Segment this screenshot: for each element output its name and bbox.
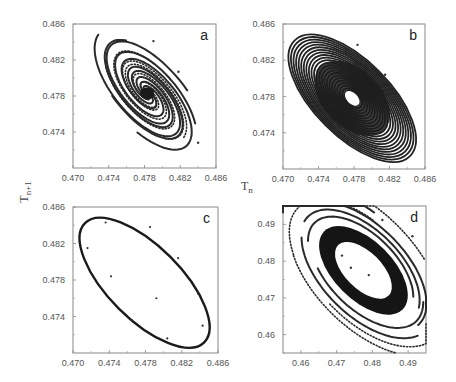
data-point (105, 221, 107, 223)
data-point (403, 107, 405, 109)
panel-letter: b (409, 27, 417, 43)
y-tick-label: 0.486 (42, 202, 65, 212)
panel-d: 0.460.470.480.490.460.470.480.49d (257, 206, 426, 368)
y-tick-label: 0.47 (257, 293, 275, 303)
data-point (152, 40, 154, 42)
data-point (110, 275, 112, 277)
data-point (411, 235, 413, 237)
x-tick-label: 0.48 (364, 358, 382, 368)
x-tick-label: 0.470 (62, 173, 85, 183)
panel-a: 0.4700.4740.4780.4820.4860.4740.4780.482… (42, 19, 227, 183)
x-tick-label: 0.486 (205, 173, 228, 183)
data-point (350, 267, 352, 269)
x-axis-title-sub: n (248, 185, 253, 195)
data-point (384, 74, 386, 76)
data-point (177, 71, 179, 73)
y-tick-label: 0.474 (252, 128, 275, 138)
data-point (155, 297, 157, 299)
data-point (86, 247, 88, 249)
data-point (177, 257, 179, 259)
x-tick-label: 0.486 (207, 358, 230, 368)
x-tick-label: 0.482 (170, 358, 193, 368)
y-axis-title-sub: n+1 (23, 181, 33, 195)
y-tick-label: 0.478 (42, 91, 65, 101)
panel-c: 0.4700.4740.4780.4820.4860.4740.4780.482… (42, 197, 230, 368)
svg-text:Tn+1: Tn+1 (17, 181, 33, 202)
fixed-point (140, 87, 154, 99)
y-axis-title: Tn+1 (17, 181, 33, 202)
panel-letter: a (200, 27, 208, 43)
data-point (197, 142, 199, 144)
svg-text:Tn: Tn (241, 179, 253, 195)
y-tick-label: 0.48 (257, 256, 275, 266)
x-tick-label: 0.486 (414, 174, 437, 184)
y-tick-label: 0.478 (42, 275, 65, 285)
data-point (149, 226, 151, 228)
y-tick-label: 0.474 (42, 312, 65, 322)
data-point (341, 254, 343, 256)
x-axis-title: Tn (241, 179, 253, 195)
x-tick-label: 0.49 (399, 358, 417, 368)
y-tick-label: 0.46 (257, 330, 275, 340)
y-tick-label: 0.482 (42, 55, 65, 65)
x-tick-label: 0.482 (378, 174, 401, 184)
x-tick-label: 0.478 (133, 173, 156, 183)
panel-b: 0.4700.4740.4780.4820.4860.4740.4780.482… (252, 14, 436, 184)
figure: 0.4700.4740.4780.4820.4860.4740.4780.482… (0, 0, 456, 382)
x-tick-label: 0.482 (169, 173, 192, 183)
data-point (201, 325, 203, 327)
y-tick-label: 0.474 (42, 127, 65, 137)
data-point (356, 44, 358, 46)
y-tick-label: 0.486 (252, 19, 275, 29)
x-tick-label: 0.470 (62, 358, 85, 368)
x-tick-label: 0.46 (292, 358, 310, 368)
data-point (381, 219, 383, 221)
y-tick-label: 0.49 (257, 219, 275, 229)
x-tick-label: 0.478 (134, 358, 157, 368)
x-tick-label: 0.474 (97, 173, 120, 183)
x-tick-label: 0.474 (307, 174, 330, 184)
data-point (197, 293, 199, 295)
data-point (166, 337, 168, 339)
y-tick-label: 0.482 (252, 55, 275, 65)
panel-letter: d (410, 209, 418, 225)
data-point (368, 274, 370, 276)
panel-letter: c (203, 210, 210, 226)
y-tick-label: 0.486 (42, 19, 65, 29)
x-tick-label: 0.478 (343, 174, 366, 184)
y-tick-label: 0.482 (42, 239, 65, 249)
y-tick-label: 0.478 (252, 92, 275, 102)
x-tick-label: 0.47 (328, 358, 346, 368)
x-tick-label: 0.474 (98, 358, 121, 368)
data-point (131, 319, 133, 321)
x-tick-label: 0.470 (272, 174, 295, 184)
